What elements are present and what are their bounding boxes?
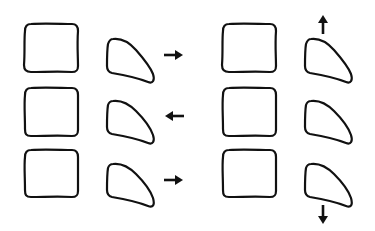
wedge-piece (107, 101, 154, 144)
left-row-1 (24, 24, 183, 83)
wedge-piece (305, 39, 352, 83)
left-row-3 (25, 150, 183, 207)
wedge-piece (305, 101, 352, 144)
right-column (222, 15, 352, 224)
wedge-piece (305, 164, 352, 207)
up-arrow-icon (318, 15, 328, 34)
wedge-piece (107, 164, 154, 207)
diagram-canvas (0, 0, 375, 231)
square-block (24, 24, 78, 72)
square-block (223, 88, 276, 136)
right-row-1 (222, 15, 352, 83)
left-arrow-icon (165, 111, 184, 121)
left-row-2 (25, 88, 184, 144)
right-row-3 (223, 150, 352, 224)
square-block (223, 150, 276, 197)
wedge-piece (107, 39, 154, 83)
left-column (24, 24, 184, 207)
right-arrow-icon (164, 50, 183, 60)
down-arrow-icon (318, 205, 328, 224)
square-block (222, 24, 276, 72)
right-arrow-icon (164, 175, 183, 185)
right-row-2 (223, 88, 352, 144)
square-block (25, 150, 78, 197)
square-block (25, 88, 78, 136)
diagram-svg (0, 0, 375, 231)
